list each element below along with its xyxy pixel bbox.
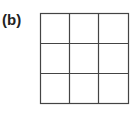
grid-diagram (0, 0, 139, 115)
grid-outer-border (41, 14, 129, 104)
